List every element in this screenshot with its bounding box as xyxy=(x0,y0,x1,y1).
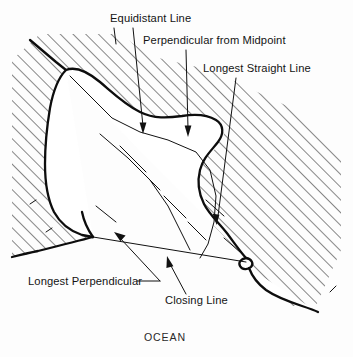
arrowhead-longest-perpendicular xyxy=(114,232,126,241)
construction-tick-d xyxy=(188,222,206,240)
arrowhead-closing-line xyxy=(166,256,173,268)
label-equidistant-line: Equidistant Line xyxy=(110,12,191,24)
closing-line xyxy=(93,237,246,262)
construction-tick-c xyxy=(164,196,186,218)
juridical-bay-figure: Equidistant Line Perpendicular from Midp… xyxy=(0,0,353,357)
construction-tick-b xyxy=(136,166,160,190)
construction-tick-e xyxy=(96,206,116,222)
coastline-right-headland-knob xyxy=(239,258,252,269)
stray-mark-right xyxy=(330,286,336,292)
label-ocean: OCEAN xyxy=(144,331,186,343)
closing-line-segment xyxy=(93,237,246,262)
leader-closing-line xyxy=(170,264,186,294)
label-longest-straight-line: Longest Straight Line xyxy=(203,62,311,74)
diagram-canvas: Equidistant Line Perpendicular from Midp… xyxy=(0,0,353,357)
label-longest-perpendicular: Longest Perpendicular xyxy=(28,275,142,287)
label-perpendicular-from-midpoint: Perpendicular from Midpoint xyxy=(143,34,286,46)
label-closing-line: Closing Line xyxy=(165,294,228,306)
